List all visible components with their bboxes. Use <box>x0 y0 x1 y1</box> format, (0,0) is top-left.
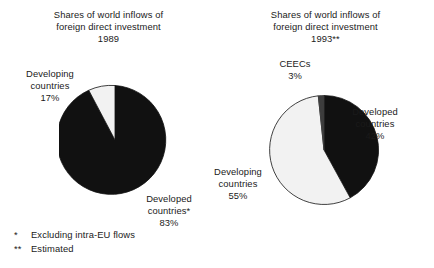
chart-title-1993-line1: Shares of world inflows of <box>217 9 434 21</box>
chart-title-1993-line2: foreign direct investment <box>217 21 434 33</box>
pie-label-1993-developing-value: 55% <box>192 190 284 202</box>
figure-canvas: Shares of world inflows of foreign direc… <box>0 0 434 268</box>
pie-label-1989-developing-value: 17% <box>8 92 92 104</box>
footnote-1: * Excluding intra-EU flows <box>14 228 274 242</box>
pie-label-1993-developed-name2: countries <box>329 118 421 130</box>
pie-label-1993-developing-name1: Developing <box>192 166 284 178</box>
pie-label-1993-ceecs: CEECs 3% <box>262 58 328 82</box>
pie-label-1989-developing-name2: countries <box>8 80 92 92</box>
footnote-2-text: Estimated <box>31 242 74 256</box>
chart-title-1993-line3: 1993** <box>217 33 434 45</box>
pie-label-1993-developed: Developed countries 42% <box>329 106 421 143</box>
pie-label-1989-developing-name1: Developing <box>8 68 92 80</box>
footnotes: * Excluding intra-EU flows ** Estimated <box>14 228 274 255</box>
chart-title-1989-line2: foreign direct investment <box>0 21 217 33</box>
pie-label-1993-developed-value: 42% <box>329 130 421 142</box>
chart-title-1989: Shares of world inflows of foreign direc… <box>0 9 217 46</box>
footnote-2: ** Estimated <box>14 242 274 256</box>
pie-label-1993-developing-name2: countries <box>192 178 284 190</box>
pie-label-1993-ceecs-name: CEECs <box>262 58 328 70</box>
footnote-1-mark: * <box>14 228 31 242</box>
footnote-2-mark: ** <box>14 242 31 256</box>
chart-title-1989-line3: 1989 <box>0 33 217 45</box>
pie-label-1989-developed-name2: countries* <box>126 205 212 217</box>
chart-title-1989-line1: Shares of world inflows of <box>0 9 217 21</box>
pie-label-1993-developing: Developing countries 55% <box>192 166 284 203</box>
chart-title-1993: Shares of world inflows of foreign direc… <box>217 9 434 46</box>
pie-label-1993-ceecs-value: 3% <box>262 70 328 82</box>
pie-label-1989-developing: Developing countries 17% <box>8 68 92 105</box>
footnote-1-text: Excluding intra-EU flows <box>31 228 135 242</box>
pie-label-1993-developed-name1: Developed <box>329 106 421 118</box>
